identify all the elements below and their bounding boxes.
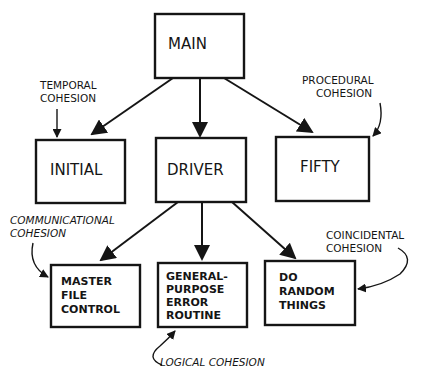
module-fifty: FIFTY [276,137,369,201]
annotation-procedural-line-1: PROCEDURAL [302,74,374,86]
annotation-procedural-pointer [373,103,381,136]
call-main-initial [92,78,173,134]
annotation-communicational-line-1: COMMUNICATIONAL [10,214,115,226]
module-error-routine-line-4: ROUTINE [166,309,221,322]
annotation-temporal-cohesion: TEMPORAL COHESION [39,79,97,137]
annotation-communicational-line-2: COHESION [10,227,66,239]
module-master-file-control-line-2: FILE [61,289,87,302]
module-error-routine-line-2: PURPOSE [166,283,224,296]
module-initial: INITIAL [36,140,125,203]
module-error-routine-line-1: GENERAL- [166,270,228,283]
call-driver-master-file-control [101,202,178,260]
call-main-fifty [224,78,312,132]
module-master-file-control: MASTER FILE CONTROL [51,265,140,327]
annotation-coincidental-line-1: COINCIDENTAL [326,229,404,241]
annotation-temporal-line-2: COHESION [40,92,96,104]
module-master-file-control-line-3: CONTROL [61,303,120,316]
module-error-routine-line-3: ERROR [166,296,209,309]
module-driver-label: DRIVER [167,161,224,179]
module-driver: DRIVER [156,138,246,202]
annotation-coincidental-line-2: COHESION [326,242,382,254]
annotation-temporal-line-1: TEMPORAL [39,79,97,91]
module-do-random-things-line-3: THINGS [279,299,326,312]
module-do-random-things-line-2: RANDOM [279,285,335,298]
module-do-random-things-line-1: DO [279,271,297,284]
module-general-purpose-error-routine: GENERAL- PURPOSE ERROR ROUTINE [158,263,247,327]
module-master-file-control-line-1: MASTER [61,275,112,288]
annotation-communicational-pointer [32,243,48,277]
structure-chart: MAIN INITIAL DRIVER FIFTY MASTER FILE CO… [0,0,434,382]
annotation-logical-cohesion: LOGICAL COHESION [153,331,265,368]
annotation-procedural-line-2: COHESION [316,87,372,99]
module-initial-label: INITIAL [50,161,103,179]
module-main: MAIN [155,14,244,78]
module-main-label: MAIN [168,35,207,53]
annotation-logical-line-1: LOGICAL COHESION [160,356,265,368]
module-do-random-things: DO RANDOM THINGS [265,261,355,325]
annotation-procedural-cohesion: PROCEDURAL COHESION [302,74,381,136]
module-fifty-label: FIFTY [300,158,341,176]
annotation-coincidental-pointer [358,248,408,289]
call-driver-do-random-things [232,202,295,258]
